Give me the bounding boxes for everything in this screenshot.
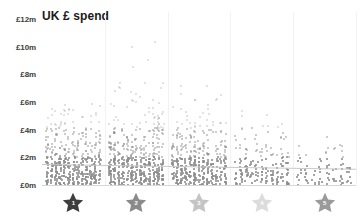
data-point (112, 181, 114, 183)
data-point (54, 146, 56, 148)
data-point (180, 93, 182, 95)
data-point (160, 87, 162, 89)
data-point (76, 176, 78, 178)
data-point (246, 170, 248, 172)
data-point (46, 182, 48, 184)
data-point (277, 171, 279, 173)
data-point (87, 173, 89, 175)
x-axis-category-3[interactable]: 3 (182, 188, 216, 218)
data-point (211, 176, 213, 178)
data-point (158, 155, 160, 157)
data-point (224, 181, 226, 183)
data-point (109, 136, 111, 138)
data-point (189, 141, 191, 143)
data-point (281, 173, 283, 175)
data-point (110, 159, 112, 161)
data-point (135, 129, 137, 131)
data-point (134, 139, 136, 141)
data-point (114, 90, 116, 92)
gridline-vertical (168, 12, 169, 185)
data-point (340, 164, 342, 166)
y-axis: £12m£10m£8m£6m£4m£2m£0m (0, 0, 38, 219)
data-point (298, 154, 300, 156)
data-point (202, 160, 204, 162)
data-point (220, 141, 222, 143)
data-point (275, 163, 277, 165)
data-point (131, 153, 133, 155)
data-point (127, 175, 129, 177)
data-point (207, 168, 209, 170)
data-point (60, 158, 62, 160)
data-point (95, 114, 97, 116)
data-point (94, 147, 96, 149)
data-point (262, 168, 264, 170)
data-point (271, 180, 273, 182)
data-point (251, 182, 253, 184)
data-point (255, 134, 257, 136)
data-point (176, 135, 178, 137)
data-point (206, 119, 208, 121)
data-point (89, 157, 91, 159)
data-point (95, 182, 97, 184)
data-point (86, 161, 88, 163)
data-point (281, 123, 283, 125)
data-point (114, 182, 116, 184)
data-point (82, 175, 84, 177)
data-point (328, 179, 330, 181)
data-point (94, 155, 96, 157)
data-point (235, 139, 237, 141)
data-point (50, 175, 52, 177)
data-point (207, 170, 209, 172)
data-point (91, 103, 93, 105)
data-point (87, 156, 89, 158)
x-axis-category-1[interactable]: 1 (56, 188, 90, 218)
data-point (74, 157, 76, 159)
data-point (185, 111, 187, 113)
data-point (217, 180, 219, 182)
data-point (206, 125, 208, 127)
data-point (202, 176, 204, 178)
data-point (91, 175, 93, 177)
data-point (276, 154, 278, 156)
data-point (68, 148, 70, 150)
y-tick-label: £0m (20, 181, 36, 190)
data-point (109, 153, 111, 155)
data-point (257, 161, 259, 163)
data-point (149, 162, 151, 164)
data-point (72, 174, 74, 176)
data-point (203, 142, 205, 144)
data-point (189, 156, 191, 158)
data-point (198, 170, 200, 172)
data-point (202, 178, 204, 180)
data-point (259, 151, 261, 153)
x-axis-category-5[interactable]: 5 (308, 188, 342, 218)
data-point (177, 163, 179, 165)
data-point (95, 112, 97, 114)
x-axis-category-2[interactable]: 2 (119, 188, 153, 218)
data-point (113, 174, 115, 176)
data-point (98, 130, 100, 132)
data-point (327, 147, 329, 149)
data-point (126, 179, 128, 181)
data-point (122, 166, 124, 168)
data-point (287, 162, 289, 164)
data-point (85, 182, 87, 184)
data-point (262, 125, 264, 127)
data-point (210, 180, 212, 182)
data-point (156, 182, 158, 184)
data-point (193, 162, 195, 164)
data-point (185, 147, 187, 149)
data-point (255, 174, 257, 176)
data-point (110, 103, 112, 105)
data-point (74, 145, 76, 147)
data-point (109, 142, 111, 144)
data-point (152, 99, 154, 101)
data-point (148, 180, 150, 182)
data-point (67, 177, 69, 179)
data-point (162, 161, 164, 163)
x-axis-category-4[interactable]: 4 (245, 188, 279, 218)
data-point (271, 174, 273, 176)
data-point (184, 162, 186, 164)
data-point (56, 133, 58, 135)
data-point (162, 133, 164, 135)
